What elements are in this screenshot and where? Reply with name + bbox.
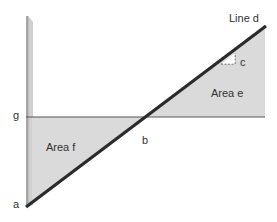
label-c: c bbox=[240, 57, 246, 68]
label-a: a bbox=[13, 199, 19, 210]
label-area-f: Area f bbox=[46, 142, 75, 153]
label-b: b bbox=[142, 135, 148, 146]
label-g: g bbox=[13, 110, 19, 121]
label-line-d: Line d bbox=[229, 13, 259, 24]
vertical-axis-bar-edge bbox=[26, 16, 29, 207]
diagram-canvas bbox=[0, 0, 277, 222]
label-area-e: Area e bbox=[211, 88, 243, 99]
